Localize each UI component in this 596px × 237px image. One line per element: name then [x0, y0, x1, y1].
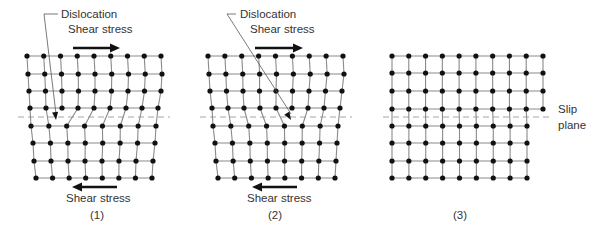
atom-dot: [457, 88, 462, 93]
atom-dot: [65, 158, 70, 163]
bond-vertical: [33, 143, 34, 161]
atom-dot: [65, 140, 70, 145]
atom-dot: [290, 88, 295, 93]
atom-dot: [318, 123, 323, 128]
atom-dot: [341, 71, 346, 76]
atom-dot: [389, 158, 394, 163]
atom-dot: [48, 158, 53, 163]
atom-dot: [239, 53, 244, 58]
atom-dot: [491, 123, 496, 128]
atom-dot: [473, 70, 478, 75]
atom-dot: [25, 71, 30, 76]
atom-dot: [248, 158, 253, 163]
panel-3-slip-complete: [383, 53, 552, 180]
atom-dot: [222, 53, 227, 58]
atom-dot: [423, 140, 428, 145]
atom-dot: [457, 70, 462, 75]
atom-dot: [299, 175, 304, 180]
bond-across-slip-plane: [30, 108, 31, 126]
atom-dot: [389, 123, 394, 128]
atom-dot: [100, 140, 105, 145]
atom-dot: [126, 71, 131, 76]
atom-dot: [524, 140, 529, 145]
atom-dot: [406, 70, 411, 75]
bond-vertical: [215, 143, 216, 161]
panel-2-top-shear-label: Shear stress: [250, 23, 315, 35]
atom-dot: [158, 53, 163, 58]
atom-dot: [83, 175, 88, 180]
atom-dot: [282, 123, 287, 128]
atom-dot: [42, 71, 47, 76]
atom-dot: [440, 53, 445, 58]
atom-dot: [389, 140, 394, 145]
atom-dot: [337, 105, 342, 110]
atom-dot: [143, 71, 148, 76]
atom-dot: [108, 53, 113, 58]
atom-dot: [142, 53, 147, 58]
bond-vertical: [242, 56, 243, 74]
atom-dot: [64, 123, 69, 128]
atom-dot: [116, 175, 121, 180]
atom-dot: [43, 105, 48, 110]
atom-dot: [91, 53, 96, 58]
atom-dot: [473, 53, 478, 58]
atom-dot: [142, 88, 147, 93]
bond-vertical: [61, 56, 62, 74]
atom-dot: [155, 105, 160, 110]
atom-dot: [323, 88, 328, 93]
atom-dot: [389, 53, 394, 58]
atom-dot: [139, 105, 144, 110]
atom-dot: [246, 123, 251, 128]
panel-3-caption: (3): [453, 209, 467, 221]
atom-dot: [491, 158, 496, 163]
atom-dot: [389, 106, 394, 111]
bond-vertical: [336, 143, 337, 161]
atom-dot: [118, 140, 123, 145]
atom-dot: [457, 106, 462, 111]
bond-vertical: [232, 143, 233, 161]
atom-dot: [300, 123, 305, 128]
atom-dot: [266, 175, 271, 180]
atom-dot: [340, 53, 345, 58]
atom-dot: [133, 158, 138, 163]
atom-dot: [153, 123, 158, 128]
atom-dot: [133, 175, 138, 180]
atom-dot: [508, 140, 513, 145]
atom-dot: [264, 123, 269, 128]
atom-dot: [24, 53, 29, 58]
atom-dot: [149, 175, 154, 180]
atom-dot: [491, 175, 496, 180]
atom-dot: [109, 88, 114, 93]
atom-dot: [290, 53, 295, 58]
atom-dot: [540, 53, 545, 58]
panel-1-dislocation-start: [18, 14, 170, 192]
bond-across-slip-plane: [212, 108, 213, 126]
atom-dot: [150, 158, 155, 163]
atom-dot: [33, 175, 38, 180]
atom-dot: [321, 105, 326, 110]
atom-dot: [317, 140, 322, 145]
atom-dot: [524, 53, 529, 58]
atom-dot: [213, 158, 218, 163]
bond-vertical: [276, 56, 277, 74]
atom-dot: [210, 123, 215, 128]
atom-dot: [524, 70, 529, 75]
atom-dot: [490, 106, 495, 111]
atom-dot: [423, 88, 428, 93]
atom-dot: [206, 71, 211, 76]
atom-dot: [100, 123, 105, 128]
panel-2-dislocation-moving: [200, 14, 352, 192]
atom-dot: [508, 175, 513, 180]
atom-dot: [474, 140, 479, 145]
atom-dot: [125, 53, 130, 58]
atom-dot: [423, 158, 428, 163]
atom-dot: [333, 158, 338, 163]
bottom-shear-arrow-icon: [252, 183, 262, 192]
atom-dot: [508, 123, 513, 128]
atom-dot: [305, 105, 310, 110]
bond-vertical: [111, 56, 112, 74]
bond-vertical: [50, 143, 51, 161]
atom-dot: [76, 71, 81, 76]
bond-vertical: [309, 56, 310, 74]
bond-vertical: [292, 56, 293, 74]
